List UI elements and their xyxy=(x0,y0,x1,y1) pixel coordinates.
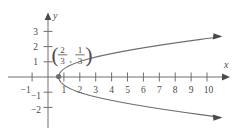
y-tick-label: 1 xyxy=(33,57,38,67)
y-tick-label: 2 xyxy=(33,42,38,52)
label-comma: , xyxy=(70,54,72,64)
label-x-denominator: 3 xyxy=(60,56,65,66)
x-axis xyxy=(8,74,230,81)
x-tick-label: 8 xyxy=(173,85,178,95)
x-tick-label: −1 xyxy=(21,85,31,95)
x-tick-label: 6 xyxy=(141,85,146,95)
x-tick-label: 3 xyxy=(93,85,98,95)
label-y-numerator: 1 xyxy=(78,45,83,55)
label-close-paren: ) xyxy=(86,43,93,67)
x-tick-label: 9 xyxy=(189,85,194,95)
label-y-denominator: 3 xyxy=(78,56,83,66)
x-axis-label: x xyxy=(223,59,229,70)
y-tick-label: 3 xyxy=(33,27,38,37)
point-coordinate-label: ( 2 3 , 1 3 ) xyxy=(52,43,93,67)
y-tick-label: −2 xyxy=(31,105,41,115)
coordinate-plane-svg: −1 1 2 3 4 5 6 7 8 9 10 3 2 1 −1 −2 x y xyxy=(0,0,249,133)
y-axis xyxy=(45,13,52,129)
x-tick-label: 4 xyxy=(109,85,114,95)
label-x-numerator: 2 xyxy=(60,45,65,55)
y-tick-label: −1 xyxy=(31,91,41,101)
parabola-graph-figure: −1 1 2 3 4 5 6 7 8 9 10 3 2 1 −1 −2 x y xyxy=(0,0,249,133)
x-tick-labels: −1 1 2 3 4 5 6 7 8 9 10 xyxy=(21,85,214,95)
y-tick-labels: 3 2 1 −1 −2 xyxy=(31,27,41,115)
label-open-paren: ( xyxy=(52,43,59,67)
x-tick-label: 10 xyxy=(204,85,214,95)
labeled-point-marker xyxy=(56,74,61,79)
x-tick-label: 5 xyxy=(125,85,130,95)
lower-branch-arrowhead xyxy=(213,114,223,120)
y-axis-label: y xyxy=(52,10,58,21)
x-tick-label: 7 xyxy=(157,85,162,95)
upper-branch-arrowhead xyxy=(213,33,223,39)
